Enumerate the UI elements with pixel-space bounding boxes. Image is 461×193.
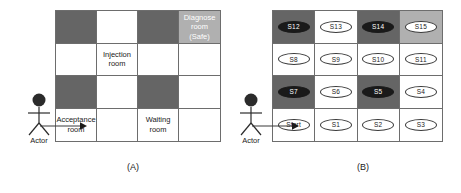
grid-cell-a-r3c3 bbox=[138, 76, 179, 109]
grid-cell-b-r1c3: S14 bbox=[358, 11, 400, 44]
grid-cell-a-r2c4 bbox=[179, 44, 220, 77]
grid-cell-a-r2c3 bbox=[138, 44, 179, 77]
state-node-s11: S11 bbox=[405, 53, 437, 65]
grid-cell-a-r2c2: Injection room bbox=[97, 44, 138, 77]
panel-caption-b: (B) bbox=[343, 162, 383, 172]
grid-cell-b-r1c2: S13 bbox=[315, 11, 357, 44]
state-node-s14: S14 bbox=[362, 21, 394, 33]
grid-cell-b-r3c1: S7 bbox=[273, 76, 315, 109]
state-node-s7: S7 bbox=[278, 86, 310, 98]
grid-cell-a-r4c2 bbox=[97, 109, 138, 142]
state-node-s6: S6 bbox=[320, 86, 352, 98]
state-node-s8: S8 bbox=[278, 53, 310, 65]
grid-cell-b-r2c1: S8 bbox=[273, 44, 315, 77]
room-label: Diagnose room (Safe) bbox=[179, 13, 220, 42]
grid-cell-a-r4c3: Waiting room bbox=[138, 109, 179, 142]
grid-cell-b-r2c2: S9 bbox=[315, 44, 357, 77]
actor-label-a: Actor bbox=[16, 136, 62, 145]
grid-cell-a-r3c2 bbox=[97, 76, 138, 109]
grid-cell-b-r3c3: S5 bbox=[358, 76, 400, 109]
state-node-s15: S15 bbox=[405, 21, 437, 33]
panel-caption-a: (A) bbox=[113, 162, 153, 172]
figure-container: Diagnose room (Safe)Injection roomAccept… bbox=[0, 0, 461, 193]
grid-cell-b-r1c4: S15 bbox=[400, 11, 442, 44]
grid-cell-b-r2c4: S11 bbox=[400, 44, 442, 77]
grid-cell-b-r3c4: S4 bbox=[400, 76, 442, 109]
state-node-s1: S1 bbox=[320, 119, 352, 131]
grid-cell-b-r3c2: S6 bbox=[315, 76, 357, 109]
grid-cell-a-r2c1 bbox=[56, 44, 97, 77]
grid-cell-b-r1c1: S12 bbox=[273, 11, 315, 44]
grid-cell-a-r1c3 bbox=[138, 11, 179, 44]
grid-cell-a-r3c4 bbox=[179, 76, 220, 109]
grid-cell-a-r1c4: Diagnose room (Safe) bbox=[179, 11, 220, 44]
grid-cell-a-r1c1 bbox=[56, 11, 97, 44]
grid-cell-a-r4c4 bbox=[179, 109, 220, 142]
grid-cell-b-r2c3: S10 bbox=[358, 44, 400, 77]
grid-cell-b-r4c4: S3 bbox=[400, 109, 442, 142]
state-node-s5: S5 bbox=[362, 86, 394, 98]
state-node-s9: S9 bbox=[320, 53, 352, 65]
grid-cell-a-r3c1 bbox=[56, 76, 97, 109]
grid-cell-b-r4c3: S2 bbox=[358, 109, 400, 142]
state-node-s4: S4 bbox=[405, 86, 437, 98]
state-node-s3: S3 bbox=[405, 119, 437, 131]
room-label: Waiting room bbox=[145, 115, 172, 134]
entry-arrow-b bbox=[252, 118, 300, 134]
entry-arrow-a bbox=[40, 118, 88, 134]
grid-cell-a-r1c2 bbox=[97, 11, 138, 44]
arrow-right-icon bbox=[40, 118, 88, 134]
arrow-right-icon bbox=[252, 118, 300, 134]
room-label: Injection room bbox=[102, 50, 132, 69]
state-node-s13: S13 bbox=[320, 21, 352, 33]
grid-cell-b-r4c2: S1 bbox=[315, 109, 357, 142]
state-node-s2: S2 bbox=[362, 119, 394, 131]
actor-label-b: Actor bbox=[228, 136, 274, 145]
state-node-s12: S12 bbox=[278, 21, 310, 33]
state-node-s10: S10 bbox=[362, 53, 394, 65]
